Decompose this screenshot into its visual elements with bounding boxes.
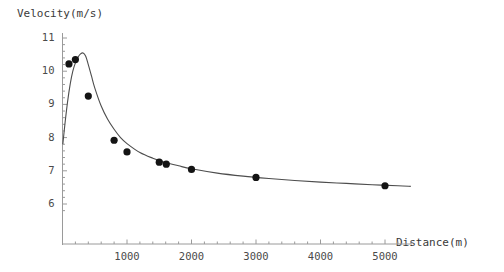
data-point	[111, 137, 118, 144]
chart-figure: Velocity(m/s) Distance(m) 67891011 10002…	[0, 0, 504, 272]
data-point	[156, 159, 163, 166]
fitted-curve	[63, 53, 411, 187]
data-point	[381, 182, 388, 189]
data-point	[72, 56, 79, 63]
data-point	[188, 166, 195, 173]
data-point	[85, 93, 92, 100]
data-point	[252, 174, 259, 181]
plot-area	[0, 0, 504, 272]
model-curve-path	[63, 53, 411, 187]
data-points	[65, 56, 388, 189]
data-point	[163, 161, 170, 168]
data-point	[123, 148, 130, 155]
data-point	[65, 60, 72, 67]
